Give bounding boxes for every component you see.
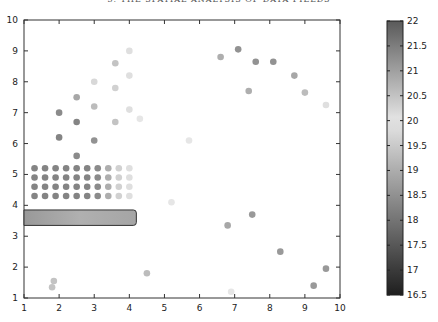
data-point [126,72,133,79]
y-tick-label: 3 [12,231,18,241]
data-point [116,184,123,191]
x-tick-label: 4 [126,303,132,313]
data-point [42,184,49,191]
data-point [310,282,317,289]
data-point [31,174,38,181]
data-point [51,278,58,285]
colorbar-tick-label: 16.5 [407,290,427,300]
data-point [52,184,59,191]
x-tick-label: 2 [56,303,62,313]
x-tick-label: 10 [334,303,346,313]
overlay-bar [24,210,136,225]
data-point [94,193,101,200]
data-point [105,165,112,172]
data-point [217,54,224,61]
data-point [63,174,70,181]
y-tick-label: 8 [12,77,18,87]
data-point [228,289,235,296]
x-tick-label: 7 [232,303,238,313]
data-point [112,85,119,92]
colorbar-tick-label: 19.5 [407,141,427,151]
data-point [168,199,175,206]
data-point [31,184,38,191]
colorbar-tick-label: 17.5 [407,240,427,250]
data-point [73,119,80,126]
data-point [270,58,277,65]
data-point [73,174,80,181]
colorbar-tick-label: 17 [407,265,418,275]
data-point [94,184,101,191]
colorbar-tick-label: 18 [407,215,419,225]
data-point [56,109,63,116]
data-point [52,165,59,172]
data-point [323,265,330,272]
data-point [73,94,80,101]
data-point [116,174,123,181]
x-tick-label: 9 [302,303,308,313]
data-point [31,165,38,172]
data-point [126,193,133,200]
y-tick-label: 7 [12,108,18,118]
data-point [84,184,91,191]
data-point [105,184,112,191]
y-tick-label: 9 [12,46,18,56]
x-tick-label: 3 [91,303,97,313]
colorbar-tick-label: 21.5 [407,41,427,51]
data-point [224,222,231,229]
data-point [186,137,193,144]
colorbar [387,21,403,295]
y-tick-label: 10 [7,15,19,25]
data-point [291,72,298,79]
data-point [116,165,123,172]
data-point [84,193,91,200]
data-point [52,174,59,181]
colorbar-tick-label: 22 [407,16,418,26]
data-point [42,193,49,200]
data-point [249,211,256,218]
y-tick-label: 4 [12,200,18,210]
data-point [105,193,112,200]
colorbar-tick-label: 18.5 [407,190,427,200]
data-point [94,174,101,181]
data-point [144,270,151,277]
data-point [91,137,98,144]
data-point [73,184,80,191]
data-point [63,193,70,200]
data-point [252,58,259,65]
x-tick-label: 6 [197,303,203,313]
colorbar-tick-label: 20 [407,116,419,126]
x-tick-label: 1 [21,303,27,313]
data-point [73,193,80,200]
data-point [52,193,59,200]
colorbar-tick-label: 19 [407,165,419,175]
data-point [91,103,98,110]
y-tick-label: 2 [12,262,18,272]
data-point [105,174,112,181]
x-tick-label: 5 [162,303,168,313]
data-point [84,174,91,181]
data-point [245,88,252,95]
y-tick-label: 6 [12,139,18,149]
data-point [126,106,133,113]
x-tick-label: 8 [267,303,273,313]
data-point [73,165,80,172]
data-point [63,184,70,191]
data-point [31,193,38,200]
data-point [126,48,133,55]
data-point [112,60,119,67]
data-point [137,116,144,123]
data-point [42,174,49,181]
data-point [94,165,101,172]
data-point [91,78,98,85]
data-point [116,193,123,200]
data-point [323,102,330,109]
data-point [126,184,133,191]
colorbar-tick-label: 21 [407,66,418,76]
data-point [42,165,49,172]
colorbar-tick-label: 20.5 [407,91,427,101]
plot-frame [24,20,340,298]
y-tick-label: 5 [12,169,18,179]
y-tick-label: 1 [12,293,18,303]
data-point [126,174,133,181]
data-point [56,134,63,141]
